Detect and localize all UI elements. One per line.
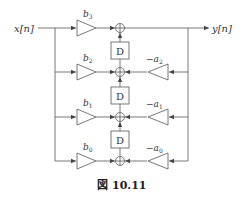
delay-label-3: D <box>116 135 124 146</box>
gain-b3-amplifier <box>77 20 96 36</box>
adder-0 <box>116 24 125 33</box>
block-diagram: D D D x[n] y[n] b3 b2 b1 b0 −a2 −a1 −a0 … <box>0 0 242 201</box>
gain-label-b0: b0 <box>83 142 93 153</box>
adder-3 <box>116 157 125 166</box>
adder-2 <box>116 113 125 122</box>
gain-a0-amplifier <box>148 153 168 169</box>
delay-label-2: D <box>116 91 124 102</box>
gain-label-a2: −a2 <box>146 54 163 65</box>
delay-label-1: D <box>116 46 124 57</box>
gain-label-b3: b3 <box>83 9 93 20</box>
gain-a2-amplifier <box>148 64 168 80</box>
gain-label-a1: −a1 <box>146 99 163 110</box>
input-label: x[n] <box>14 23 34 34</box>
gain-label-a0: −a0 <box>146 143 163 154</box>
caption-number: 10.11 <box>112 179 146 192</box>
gain-b1-amplifier <box>77 109 96 125</box>
gain-label-b2: b2 <box>83 53 93 64</box>
caption-symbol: 図 <box>97 178 108 192</box>
figure-caption: 図 10.11 <box>97 178 146 192</box>
gain-label-b1: b1 <box>83 98 93 109</box>
gain-b0-amplifier <box>77 153 96 169</box>
output-label: y[n] <box>211 23 232 34</box>
adder-1 <box>116 68 125 77</box>
gain-b2-amplifier <box>77 64 96 80</box>
gain-a1-amplifier <box>148 109 168 125</box>
